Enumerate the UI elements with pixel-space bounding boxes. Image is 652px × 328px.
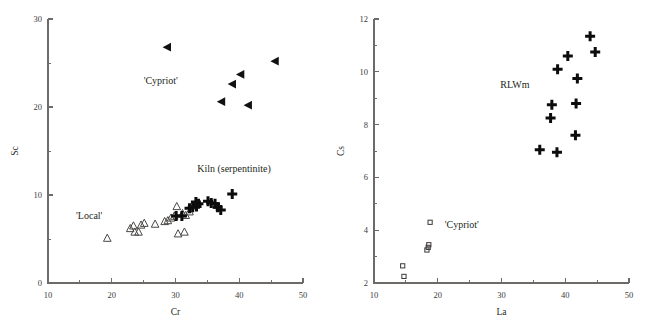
y-tick-label: 6 (364, 172, 368, 182)
series-rlwm (535, 31, 600, 157)
y-tick-label: 10 (34, 190, 43, 200)
series-annotation-label: 'Cypriot' (445, 219, 479, 230)
y-tick-label: 20 (34, 102, 43, 112)
figure-container: 10203040500102030CrSc'Cypriot'Kiln (serp… (0, 0, 652, 328)
data-point-square-open (402, 274, 406, 278)
data-point-plus (227, 189, 237, 199)
x-tick-label: 10 (44, 290, 53, 300)
data-point-plus (547, 100, 557, 110)
x-tick-label: 40 (235, 290, 244, 300)
data-point-plus (552, 147, 562, 157)
data-point-triangle-open (103, 234, 111, 241)
x-tick-label: 30 (171, 290, 180, 300)
y-tick-label: 0 (38, 278, 42, 288)
y-tick-label: 4 (364, 225, 369, 235)
series-annotation-label: 'Cypriot' (144, 75, 178, 86)
y-tick-label: 30 (34, 14, 43, 24)
data-point-square-open (425, 248, 429, 252)
series-cypriot (163, 43, 279, 110)
data-point-square-open (401, 264, 405, 268)
data-point-triangle-filled (270, 57, 278, 66)
x-tick-label: 40 (561, 290, 570, 300)
data-point-plus (572, 73, 582, 83)
x-tick-label: 30 (497, 290, 506, 300)
data-point-plus (546, 113, 556, 123)
data-point-triangle-open (173, 202, 181, 209)
data-point-triangle-open (174, 230, 182, 237)
scatter-plot-cs-vs-la: 102030405024681012LaCsRLWm'Cypriot' (326, 0, 652, 328)
data-point-plus (571, 98, 581, 108)
axis-spines (374, 19, 629, 283)
x-tick-label: 20 (434, 290, 443, 300)
x-tick-label: 10 (370, 290, 379, 300)
series-annotation-label: 'Local' (76, 210, 103, 221)
x-tick-label: 50 (625, 290, 634, 300)
scatter-plot-sc-vs-cr: 10203040500102030CrSc'Cypriot'Kiln (serp… (0, 0, 326, 328)
x-tick-label: 20 (108, 290, 117, 300)
chart-panel-left: 10203040500102030CrSc'Cypriot'Kiln (serp… (0, 0, 326, 328)
series-annotation-label: RLWm (500, 79, 529, 90)
y-tick-label: 2 (364, 278, 368, 288)
data-point-triangle-open (181, 228, 189, 235)
y-tick-label: 12 (360, 14, 369, 24)
axis-spines (48, 19, 303, 283)
data-point-plus (535, 145, 545, 155)
data-point-triangle-filled (244, 101, 252, 110)
data-point-triangle-filled (236, 70, 244, 79)
data-point-plus (563, 51, 573, 61)
data-point-square-open (428, 220, 432, 224)
x-tick-label: 50 (299, 290, 308, 300)
data-point-plus (553, 64, 563, 74)
series-annotation-label: Kiln (serpentinite) (197, 163, 271, 175)
series-local (103, 202, 193, 241)
data-point-triangle-filled (228, 80, 236, 89)
y-axis-title: Sc (10, 146, 20, 156)
y-axis-title: Cs (336, 146, 346, 156)
data-point-plus (585, 31, 595, 41)
data-point-plus (570, 130, 580, 140)
x-axis-title: La (496, 307, 507, 317)
data-point-triangle-filled (163, 43, 171, 52)
x-axis-title: Cr (171, 307, 181, 317)
chart-panel-right: 102030405024681012LaCsRLWm'Cypriot' (326, 0, 652, 328)
series-cypriot (401, 220, 433, 278)
data-point-triangle-open (151, 220, 159, 227)
series-kiln-serpentinite (171, 189, 237, 221)
y-tick-label: 8 (364, 120, 368, 130)
y-tick-label: 10 (360, 67, 369, 77)
data-point-plus (590, 47, 600, 57)
data-point-triangle-filled (217, 97, 225, 106)
